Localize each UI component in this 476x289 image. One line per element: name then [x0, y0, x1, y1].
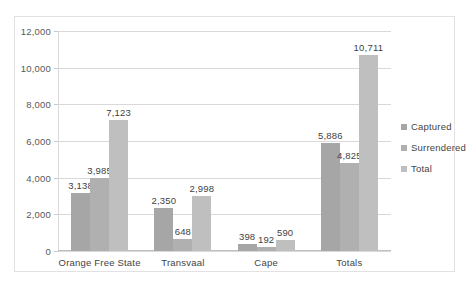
bar[interactable]: 3,138	[71, 193, 90, 251]
bar[interactable]: 3,985	[90, 178, 109, 251]
chart-frame: 02,0004,0006,0008,00010,00012,000 3,1383…	[14, 16, 455, 272]
bar-group: 5,8864,82510,711Totals	[308, 31, 391, 251]
bar-value-label: 10,711	[354, 42, 384, 53]
y-axis-tick-label: 0	[46, 246, 51, 257]
bar[interactable]: 398	[238, 244, 257, 251]
legend-swatch-icon	[401, 124, 407, 130]
bar-group: 3,1383,9857,123Orange Free State	[58, 31, 141, 251]
bar-value-label: 2,350	[151, 195, 176, 206]
chart-legend: CapturedSurrenderedTotal	[401, 121, 471, 184]
gridline	[58, 251, 391, 252]
bar-value-label: 398	[239, 231, 255, 242]
bar-value-label: 5,886	[318, 130, 343, 141]
bar[interactable]: 10,711	[359, 55, 378, 251]
bar-value-label: 2,998	[189, 183, 214, 194]
bar[interactable]: 7,123	[109, 120, 128, 251]
legend-item-label: Surrendered	[411, 142, 466, 153]
legend-item[interactable]: Total	[401, 163, 471, 174]
bar-value-label: 7,123	[106, 107, 131, 118]
x-axis-category-label: Orange Free State	[59, 257, 141, 268]
bar-value-label: 192	[258, 234, 274, 245]
legend-item[interactable]: Captured	[401, 121, 471, 132]
y-axis-tick-label: 12,000	[21, 26, 51, 37]
plot-area: 02,0004,0006,0008,00010,00012,000 3,1383…	[58, 31, 391, 251]
legend-item-label: Captured	[411, 121, 452, 132]
legend-item[interactable]: Surrendered	[401, 142, 471, 153]
bar-group: 398192590Cape	[225, 31, 308, 251]
x-axis-category-label: Transvaal	[161, 257, 204, 268]
legend-swatch-icon	[401, 145, 407, 151]
bar[interactable]: 2,350	[154, 208, 173, 251]
bar-value-label: 590	[277, 227, 293, 238]
y-axis-tick-label: 2,000	[26, 209, 51, 220]
bar-value-label: 648	[175, 226, 191, 237]
y-axis-tick-label: 6,000	[26, 136, 51, 147]
bar[interactable]: 2,998	[192, 196, 211, 251]
legend-swatch-icon	[401, 166, 407, 172]
bar[interactable]: 192	[257, 247, 276, 251]
bar-group: 2,3506482,998Transvaal	[141, 31, 224, 251]
x-axis-category-label: Totals	[336, 257, 362, 268]
y-axis-tick-label: 10,000	[21, 62, 51, 73]
y-axis-tick-label: 4,000	[26, 172, 51, 183]
bar[interactable]: 4,825	[340, 163, 359, 251]
legend-item-label: Total	[411, 163, 432, 174]
y-axis-tick	[54, 251, 58, 252]
x-axis-category-label: Cape	[254, 257, 278, 268]
bar[interactable]: 590	[276, 240, 295, 251]
bar[interactable]: 648	[173, 239, 192, 251]
y-axis-tick-label: 8,000	[26, 99, 51, 110]
